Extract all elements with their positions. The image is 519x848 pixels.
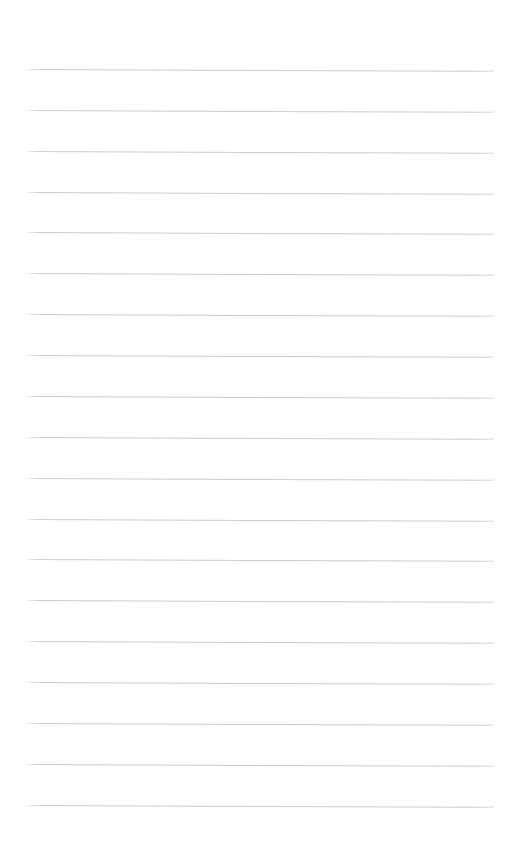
rule-line: [26, 641, 494, 644]
writing-line[interactable]: [26, 787, 494, 805]
rule-line: [26, 69, 494, 72]
ruled-writing-area[interactable]: [0, 0, 519, 848]
writing-line[interactable]: [26, 337, 494, 355]
rule-line: [26, 478, 494, 481]
rule-line: [26, 355, 494, 358]
rule-line: [26, 232, 494, 235]
writing-line[interactable]: [26, 296, 494, 314]
rule-line: [26, 151, 494, 154]
writing-line[interactable]: [26, 51, 494, 69]
writing-line[interactable]: [26, 214, 494, 232]
writing-line[interactable]: [26, 623, 494, 641]
rule-line: [26, 764, 494, 767]
writing-line[interactable]: [26, 460, 494, 478]
writing-line[interactable]: [26, 255, 494, 273]
rule-line: [26, 396, 494, 399]
rule-line: [26, 723, 494, 726]
writing-line[interactable]: [26, 541, 494, 559]
rule-line: [26, 192, 494, 195]
rule-line: [26, 273, 494, 276]
writing-line[interactable]: [26, 174, 494, 192]
writing-line[interactable]: [26, 501, 494, 519]
rule-line: [26, 110, 494, 113]
writing-line[interactable]: [26, 419, 494, 437]
writing-line[interactable]: [26, 92, 494, 110]
writing-line[interactable]: [26, 582, 494, 600]
rule-line: [26, 437, 494, 440]
writing-line[interactable]: [26, 705, 494, 723]
rule-line: [26, 805, 494, 808]
writing-line[interactable]: [26, 746, 494, 764]
rule-line: [26, 314, 494, 317]
rule-line: [26, 519, 494, 522]
rule-line: [26, 682, 494, 685]
writing-line[interactable]: [26, 664, 494, 682]
notepad-page: [0, 0, 519, 848]
rule-line: [26, 600, 494, 603]
rule-line: [26, 559, 494, 562]
writing-line[interactable]: [26, 133, 494, 151]
writing-line[interactable]: [26, 378, 494, 396]
